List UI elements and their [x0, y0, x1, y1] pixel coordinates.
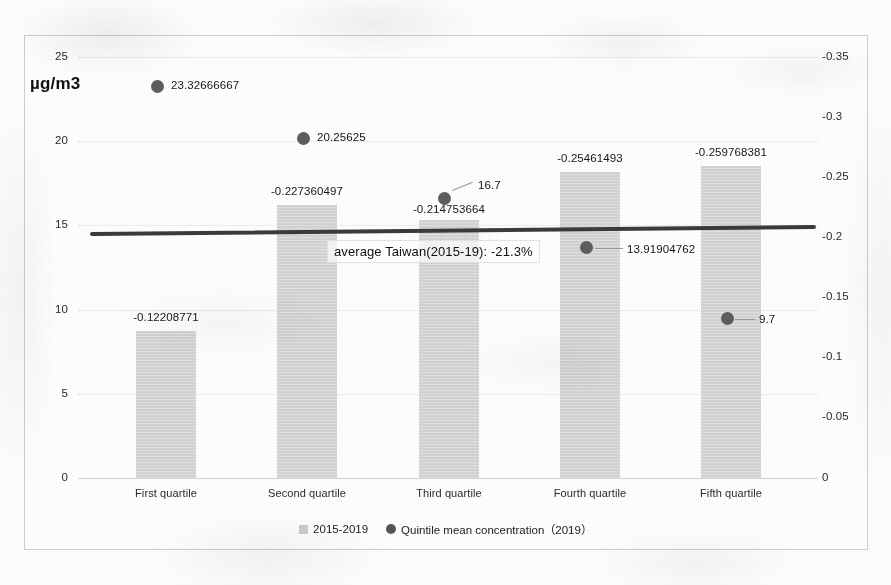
average-trendline-label: average Taiwan(2015-19): -21.3%: [327, 240, 540, 263]
right-tick-0: 0: [822, 471, 870, 483]
category-label-first-quartile: First quartile: [106, 487, 226, 499]
legend-label-markers: Quintile mean concentration（2019）: [401, 521, 592, 537]
dot-swatch-icon: [386, 524, 396, 534]
bar-label-first-quartile: -0.12208771: [106, 311, 226, 323]
marker-first-quartile[interactable]: [151, 80, 164, 93]
gridline-20: [78, 141, 818, 142]
bar-swatch-icon: [299, 525, 308, 534]
left-tick-0: 0: [28, 471, 68, 483]
bar-first-quartile[interactable]: [136, 331, 196, 478]
leader-line-fourth-quartile: [595, 248, 623, 249]
marker-label-second-quartile: 20.25625: [317, 131, 366, 143]
legend-label-bars: 2015-2019: [313, 523, 368, 535]
chart-legend: 2015-2019 Quintile mean concentration（20…: [0, 521, 891, 537]
right-tick-n015: -0.15: [822, 290, 870, 302]
category-label-fourth-quartile: Fourth quartile: [530, 487, 650, 499]
bar-label-fifth-quartile: -0.259768381: [671, 146, 791, 158]
right-tick-n025: -0.25: [822, 170, 870, 182]
bar-label-second-quartile: -0.227360497: [247, 185, 367, 197]
left-tick-5: 5: [28, 387, 68, 399]
category-label-second-quartile: Second quartile: [247, 487, 367, 499]
right-tick-n035: -0.35: [822, 50, 870, 62]
left-tick-10: 10: [28, 303, 68, 315]
marker-fourth-quartile[interactable]: [580, 241, 593, 254]
gridline-25: [78, 57, 818, 58]
bar-fourth-quartile[interactable]: [560, 172, 620, 478]
bar-label-fourth-quartile: -0.25461493: [530, 152, 650, 164]
left-tick-25: 25: [28, 50, 68, 62]
marker-second-quartile[interactable]: [297, 132, 310, 145]
legend-item-markers[interactable]: Quintile mean concentration（2019）: [386, 521, 592, 537]
axis-unit-label: µg/m3: [30, 74, 80, 94]
category-label-third-quartile: Third quartile: [389, 487, 509, 499]
left-tick-20: 20: [28, 134, 68, 146]
legend-item-bars[interactable]: 2015-2019: [299, 523, 368, 535]
right-tick-n01: -0.1: [822, 350, 870, 362]
marker-fifth-quartile[interactable]: [721, 312, 734, 325]
right-tick-n005: -0.05: [822, 410, 870, 422]
marker-label-fifth-quartile: 9.7: [759, 313, 775, 325]
chart-plot-area: 25 20 15 10 5 0 -0.35 -0.3 -0.25 -0.2 -0…: [0, 0, 891, 585]
marker-label-fourth-quartile: 13.91904762: [627, 243, 695, 255]
left-tick-15: 15: [28, 218, 68, 230]
marker-label-third-quartile: 16.7: [478, 179, 501, 191]
gridline-0: [78, 478, 818, 479]
right-tick-n02: -0.2: [822, 230, 870, 242]
leader-line-third-quartile: [452, 182, 473, 191]
marker-label-first-quartile: 23.32666667: [171, 79, 239, 91]
marker-third-quartile[interactable]: [438, 192, 451, 205]
category-label-fifth-quartile: Fifth quartile: [671, 487, 791, 499]
bar-label-third-quartile: -0.214753664: [389, 203, 509, 215]
right-tick-n03: -0.3: [822, 110, 870, 122]
leader-line-fifth-quartile: [735, 319, 755, 320]
